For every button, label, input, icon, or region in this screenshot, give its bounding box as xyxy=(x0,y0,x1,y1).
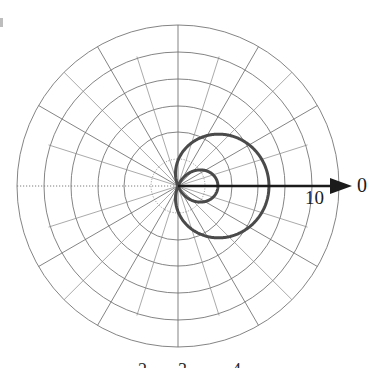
polar-plot-canvas xyxy=(0,0,368,368)
polar-plot-figure: 10 0 2 3 4 xyxy=(0,0,368,368)
grid-spoke-120 xyxy=(98,47,179,186)
grid-spoke-minor-315 xyxy=(178,186,292,300)
grid-spoke-60 xyxy=(178,47,259,186)
grid-spoke-minor-255 xyxy=(137,186,178,316)
grid-spoke-minor-285 xyxy=(178,186,219,316)
grid-spoke-minor-225 xyxy=(64,186,178,300)
grid-spoke-30 xyxy=(178,106,317,187)
grid-spoke-minor-15 xyxy=(178,145,308,186)
bottom-clipped-label-2: 3 xyxy=(178,361,187,368)
radial-tick-label-10: 10 xyxy=(305,188,324,207)
bottom-clipped-label-1: 2 xyxy=(138,361,147,368)
grid-spoke-minor-135 xyxy=(64,72,178,186)
grid-spoke-minor-345 xyxy=(178,186,308,227)
grid-spoke-minor-165 xyxy=(49,145,179,186)
polar-axis-angle-label: 0 xyxy=(357,175,367,195)
grid-spoke-minor-45 xyxy=(178,72,292,186)
grid-spoke-150 xyxy=(39,106,178,187)
grid-spoke-240 xyxy=(98,186,179,325)
bottom-clipped-label-3: 4 xyxy=(232,361,241,368)
polar-axis-arrowhead xyxy=(330,178,352,194)
grid-spoke-minor-195 xyxy=(49,186,179,227)
grid-spoke-minor-105 xyxy=(137,57,178,187)
grid-spoke-minor-75 xyxy=(178,57,219,187)
grid-spoke-300 xyxy=(178,186,259,325)
grid-spoke-210 xyxy=(39,186,178,267)
grid-spoke-330 xyxy=(178,186,317,267)
